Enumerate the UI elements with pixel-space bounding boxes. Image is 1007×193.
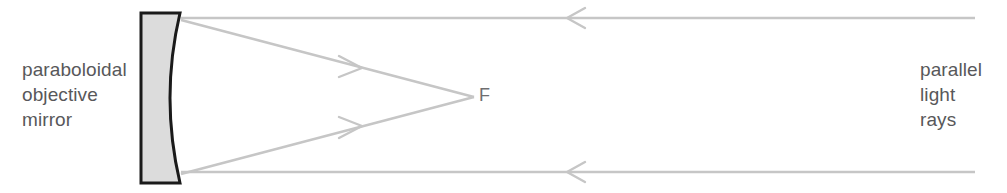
paraboloidal-mirror-shape — [141, 13, 180, 183]
parallel-light-rays-label: parallel light rays — [920, 57, 982, 132]
mirror-label: paraboloidal objective mirror — [22, 57, 127, 132]
upper-reflected-ray — [181, 20, 474, 97]
optics-diagram-canvas — [0, 0, 1007, 193]
lower-reflected-ray-arrowhead-icon — [339, 117, 362, 138]
optics-diagram: paraboloidal objective mirror parallel l… — [0, 0, 1007, 193]
focal-point-label: F — [479, 85, 490, 106]
lower-reflected-ray — [181, 97, 474, 174]
upper-reflected-ray-arrowhead-icon — [339, 56, 362, 77]
